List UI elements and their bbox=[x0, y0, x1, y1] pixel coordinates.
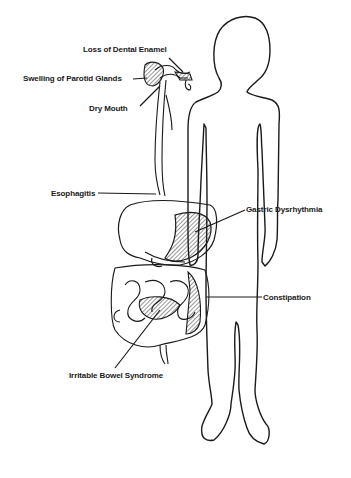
label-irritable-bowel-syndrome: Irritable Bowel Syndrome bbox=[69, 371, 163, 380]
label-dry-mouth: Dry Mouth bbox=[89, 104, 128, 113]
label-constipation: Constipation bbox=[263, 293, 311, 302]
anatomy-diagram bbox=[0, 0, 351, 478]
label-loss-of-dental-enamel: Loss of Dental Enamel bbox=[83, 45, 167, 54]
mouth-region bbox=[144, 62, 192, 196]
label-gastric-dysrhythmia: Gastric Dysrhythmia bbox=[246, 205, 322, 214]
stomach-liver bbox=[118, 200, 216, 266]
label-swelling-of-parotid-glands: Swelling of Parotid Glands bbox=[23, 74, 122, 83]
label-esophagitis: Esophagitis bbox=[51, 189, 95, 198]
intestines bbox=[111, 265, 209, 364]
